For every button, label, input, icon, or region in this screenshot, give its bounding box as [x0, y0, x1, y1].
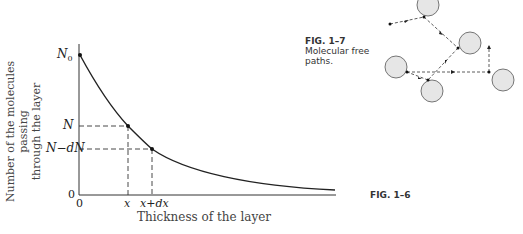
- decay-curve: [80, 55, 335, 190]
- y-tick-n0: N0: [57, 47, 73, 63]
- x-tick-zero: 0: [76, 197, 83, 210]
- molecule-circle: [417, 0, 439, 16]
- y-tick-zero: 0: [68, 188, 75, 201]
- y-axis-title: Number of the molecules passing through …: [4, 57, 43, 207]
- molecular-paths-diagram: [385, 0, 514, 102]
- fig-1-7-caption: FIG. 1–7 Molecular free paths.: [305, 36, 369, 66]
- x-axis-title: Thickness of the layer: [137, 210, 271, 224]
- y-tick-n-minus-dn: N−dN: [46, 141, 85, 155]
- y-axis-title-line1: Number of the molecules passing: [4, 57, 30, 207]
- point-n-minus-dn: [150, 147, 154, 151]
- y-tick-n0-main: N: [57, 47, 68, 61]
- molecule-circle: [459, 32, 481, 54]
- x-tick-x: x: [124, 197, 130, 210]
- fig-1-6-number: FIG. 1–6: [370, 190, 410, 200]
- molecule-circle: [421, 80, 443, 102]
- fig-1-6-caption: FIG. 1–6: [370, 190, 410, 200]
- y-axis-title-line2: through the layer: [30, 57, 43, 207]
- molecule-circle: [492, 69, 514, 91]
- point-n: [126, 124, 130, 128]
- x-tick-x-plus-dx: x+dx: [140, 197, 169, 210]
- fig-1-7-text-line1: Molecular free: [305, 46, 369, 56]
- y-tick-n0-sub: 0: [68, 54, 73, 63]
- y-tick-n: N: [63, 118, 74, 132]
- fig-1-7-text-line2: paths.: [305, 56, 369, 66]
- point-n0: [78, 53, 82, 57]
- fig-1-7-number: FIG. 1–7: [305, 36, 369, 46]
- molecule-circle: [385, 56, 407, 78]
